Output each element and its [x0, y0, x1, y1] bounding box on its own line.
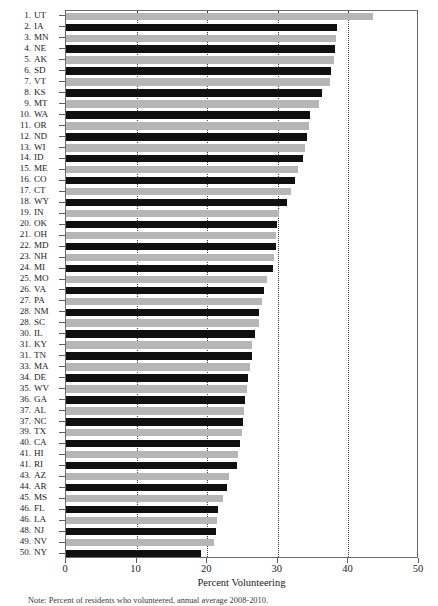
bar-row — [66, 230, 418, 241]
bar-MA — [66, 363, 250, 370]
state-abbreviation: DE — [34, 372, 46, 383]
x-axis-tick-label-10: 10 — [116, 562, 156, 576]
bar-row — [66, 471, 418, 482]
rank-number: 43. — [20, 470, 31, 481]
bar-row — [66, 362, 418, 373]
rank-number: 12. — [20, 131, 31, 142]
bar-row — [66, 285, 418, 296]
bar-ME — [66, 166, 298, 173]
rank-number: 7. — [24, 76, 31, 87]
bar-row — [66, 482, 418, 493]
y-axis-label-VA: 26.VA — [0, 284, 58, 295]
bar-SC — [66, 319, 259, 326]
x-axis-tick-label-50: 50 — [398, 562, 438, 576]
bar-row — [66, 22, 418, 33]
y-axis-label-TN: 31.TN — [0, 350, 58, 361]
rank-number: 1. — [24, 10, 31, 21]
plot-area — [65, 10, 418, 558]
state-abbreviation: OK — [34, 218, 47, 229]
bar-row — [66, 44, 418, 55]
rank-number: 31. — [20, 339, 31, 350]
bar-row — [66, 208, 418, 219]
rank-number: 37. — [20, 405, 31, 416]
bar-row — [66, 427, 418, 438]
rank-number: 23. — [20, 251, 31, 262]
rank-number: 27. — [20, 295, 31, 306]
chart-footnote: Note: Percent of residents who volunteer… — [28, 596, 428, 606]
bar-NC — [66, 418, 243, 425]
state-abbreviation: KS — [34, 87, 46, 98]
bar-NY — [66, 550, 201, 557]
y-axis-label-OH: 21.OH — [0, 229, 58, 240]
bar-OK — [66, 221, 277, 228]
state-abbreviation: HI — [34, 448, 44, 459]
bar-MT — [66, 100, 319, 107]
rank-number: 9. — [24, 98, 31, 109]
bar-ID — [66, 155, 303, 162]
bar-row — [66, 318, 418, 329]
y-axis-label-UT: 1.UT — [0, 10, 58, 21]
y-axis-labels: 1.UT2.IA3.MN4.NE5.AK6.SD7.VT8.KS9.MT10.W… — [0, 10, 65, 558]
bar-row — [66, 548, 418, 558]
bar-row — [66, 121, 418, 132]
state-abbreviation: MN — [34, 32, 49, 43]
state-abbreviation: PA — [34, 295, 45, 306]
bar-row — [66, 373, 418, 384]
bar-row — [66, 460, 418, 471]
bar-IL — [66, 330, 255, 337]
bar-LA — [66, 517, 217, 524]
y-axis-label-WY: 18.WY — [0, 196, 58, 207]
y-axis-label-ND: 12.ND — [0, 131, 58, 142]
bar-row — [66, 438, 418, 449]
state-abbreviation: AK — [34, 54, 47, 65]
state-abbreviation: ND — [34, 131, 47, 142]
state-abbreviation: NJ — [34, 525, 44, 536]
rank-number: 3. — [24, 32, 31, 43]
state-abbreviation: ID — [34, 152, 44, 163]
bar-VA — [66, 287, 264, 294]
rank-number: 5. — [24, 54, 31, 65]
y-axis-label-PA: 27.PA — [0, 295, 58, 306]
bar-UT — [66, 13, 373, 20]
state-abbreviation: MS — [34, 492, 47, 503]
bar-row — [66, 77, 418, 88]
state-abbreviation: NY — [34, 547, 47, 558]
y-axis-label-MS: 45.MS — [0, 492, 58, 503]
bar-row — [66, 197, 418, 208]
y-axis-label-KY: 31.KY — [0, 339, 58, 350]
bar-row — [66, 110, 418, 121]
state-abbreviation: KY — [34, 339, 47, 350]
state-abbreviation: MA — [34, 361, 49, 372]
bar-row — [66, 493, 418, 504]
bar-row — [66, 417, 418, 428]
y-axis-label-DE: 34.DE — [0, 372, 58, 383]
y-axis-label-NE: 4.NE — [0, 43, 58, 54]
bar-row — [66, 384, 418, 395]
rank-number: 25. — [20, 273, 31, 284]
rank-number: 50. — [20, 547, 31, 558]
y-axis-label-IA: 2.IA — [0, 21, 58, 32]
y-axis-label-RI: 41.RI — [0, 459, 58, 470]
rank-number: 35. — [20, 383, 31, 394]
bar-row — [66, 307, 418, 318]
state-abbreviation: WY — [34, 196, 49, 207]
bar-row — [66, 164, 418, 175]
bar-row — [66, 449, 418, 460]
bar-AK — [66, 56, 334, 63]
bar-PA — [66, 298, 262, 305]
y-axis-label-MN: 3.MN — [0, 32, 58, 43]
state-abbreviation: NE — [34, 43, 46, 54]
y-axis-label-TX: 39.TX — [0, 426, 58, 437]
x-axis-tick-label-40: 40 — [327, 562, 367, 576]
rank-number: 28. — [20, 306, 31, 317]
rank-number: 20. — [20, 218, 31, 229]
bar-row — [66, 329, 418, 340]
state-abbreviation: NC — [34, 416, 47, 427]
bar-row — [66, 252, 418, 263]
state-abbreviation: NH — [34, 251, 47, 262]
rank-number: 41. — [20, 448, 31, 459]
y-axis-label-AL: 37.AL — [0, 405, 58, 416]
rank-number: 31. — [20, 350, 31, 361]
rank-number: 40. — [20, 437, 31, 448]
